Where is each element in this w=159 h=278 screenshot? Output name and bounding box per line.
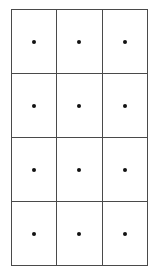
grid-cell — [12, 10, 57, 74]
dot-marker — [77, 40, 81, 44]
grid-cell — [103, 74, 148, 138]
grid-cell — [57, 10, 102, 74]
grid-cell — [12, 138, 57, 202]
dot-marker — [32, 168, 36, 172]
dot-marker — [77, 104, 81, 108]
grid-cell — [103, 10, 148, 74]
grid-cell — [57, 138, 102, 202]
dot-grid-figure — [0, 0, 159, 278]
grid-cell — [57, 202, 102, 266]
dot-marker — [123, 232, 127, 236]
dot-marker — [123, 40, 127, 44]
dot-marker — [32, 232, 36, 236]
dot-marker — [123, 104, 127, 108]
grid-cell — [12, 74, 57, 138]
dot-marker — [77, 168, 81, 172]
grid-cell — [57, 74, 102, 138]
grid-cell — [12, 202, 57, 266]
grid-cell — [103, 138, 148, 202]
dot-marker — [77, 232, 81, 236]
dot-marker — [123, 168, 127, 172]
dot-marker — [32, 104, 36, 108]
dot-marker — [32, 40, 36, 44]
grid-cell — [103, 202, 148, 266]
dot-grid — [11, 9, 148, 266]
